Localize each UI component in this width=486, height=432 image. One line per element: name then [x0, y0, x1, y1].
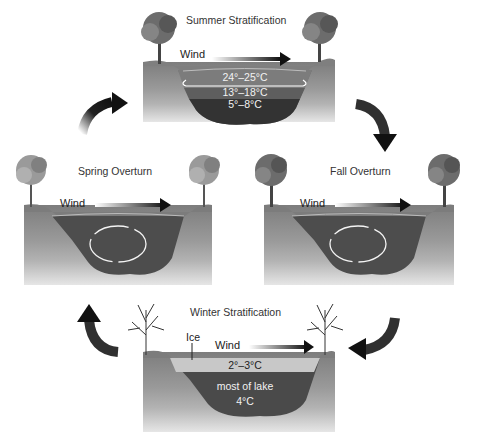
- wind-arrow-shaft: [249, 345, 307, 349]
- cycle-arrow-summer-to-fall: [356, 104, 397, 152]
- spring-title: Spring Overturn: [78, 165, 152, 177]
- summer-layer-top: 24°–25°C: [205, 71, 285, 83]
- wind-arrow-shaft: [335, 203, 405, 207]
- spring-wind-label: Wind: [60, 197, 85, 209]
- cycle-arrow-spring-to-summer: [82, 92, 128, 134]
- winter-lake-temp: 4°C: [205, 395, 285, 407]
- bare-tree-icon: [128, 304, 164, 355]
- winter-ice-temp: 2°–3°C: [205, 359, 285, 371]
- wind-arrow-shaft: [212, 57, 280, 61]
- summer-layer-mid: 13°–18°C: [205, 86, 285, 98]
- tree-icon: [428, 154, 460, 207]
- cycle-arrow-winter-to-spring: [77, 304, 118, 352]
- tree-icon: [255, 154, 287, 207]
- fall-title: Fall Overturn: [330, 165, 391, 177]
- winter-wind-label: Wind: [215, 339, 240, 351]
- summer-layer-bottom: 5°–8°C: [205, 98, 285, 110]
- tree-icon: [16, 155, 47, 207]
- summer-wind-label: Wind: [180, 48, 205, 60]
- tree-icon: [302, 12, 338, 62]
- winter-title: Winter Stratification: [190, 306, 281, 318]
- fall-wind-label: Wind: [300, 197, 325, 209]
- cycle-arrow-fall-to-winter: [348, 318, 395, 360]
- summer-title: Summer Stratification: [186, 14, 286, 26]
- tree-icon: [189, 155, 220, 207]
- wind-arrow-shaft: [95, 203, 165, 207]
- ice-label: Ice: [186, 331, 200, 343]
- wind-arrow-head: [304, 340, 314, 354]
- tree-icon: [141, 12, 177, 64]
- winter-lake-label: most of lake: [200, 380, 290, 392]
